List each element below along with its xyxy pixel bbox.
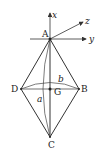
axes <box>30 13 86 39</box>
point-D <box>20 88 22 90</box>
label-A: A <box>41 29 49 39</box>
x-axis-label: x <box>52 10 57 20</box>
label-b: b <box>58 74 64 84</box>
label-D: D <box>11 84 18 94</box>
label-B: B <box>81 84 88 94</box>
edge-AB <box>50 39 79 89</box>
point-C <box>49 136 51 138</box>
z-axis <box>50 22 83 39</box>
point-B <box>78 88 80 90</box>
z-axis-label: z <box>84 16 90 26</box>
point-G <box>49 88 52 91</box>
edge-DA <box>21 39 50 89</box>
y-axis-label: y <box>88 34 95 44</box>
rhombus-diagram: x y z A B C D G a b <box>0 0 102 155</box>
label-C: C <box>48 140 55 150</box>
label-a: a <box>37 94 42 104</box>
label-G: G <box>54 87 61 97</box>
point-A <box>49 38 52 41</box>
edge-CD <box>21 89 50 137</box>
